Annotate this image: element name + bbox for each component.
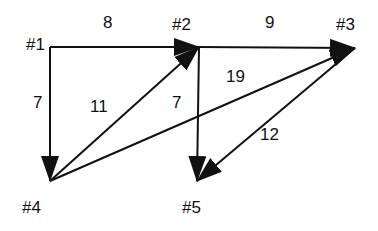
edge-weight-1-4: 7 (33, 94, 42, 111)
node-label-4: #4 (22, 199, 41, 216)
edge-weight-4-2: 11 (90, 98, 108, 115)
node-label-3: #3 (336, 16, 355, 33)
edge-2-5 (197, 47, 199, 181)
edge-weight-4-3: 19 (226, 68, 245, 85)
node-label-5: #5 (182, 199, 201, 216)
node-label-2: #2 (172, 16, 191, 33)
graph-canvas (0, 0, 378, 231)
edge-weight-1-2: 8 (103, 14, 112, 31)
edge-2-3 (199, 47, 355, 48)
edge-weight-2-3: 9 (265, 14, 274, 31)
edge-weight-2-5: 7 (172, 94, 181, 111)
edge-3-5 (197, 48, 355, 181)
edge-weight-3-5: 12 (260, 126, 279, 143)
node-label-1: #1 (26, 36, 45, 53)
edge-4-2 (50, 47, 199, 181)
